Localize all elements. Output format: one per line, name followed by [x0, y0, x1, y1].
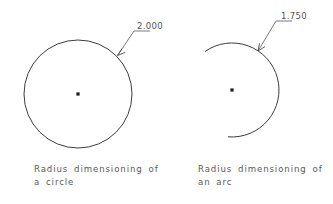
- figure-arc: [205, 21, 292, 137]
- circle-caption-line-1: Radius dimensioning of: [34, 163, 159, 176]
- circle-figure-caption: Radius dimensioning of a circle: [34, 163, 159, 189]
- circle-radius-leader-line: [118, 31, 151, 56]
- figure-circle: [24, 31, 150, 148]
- arc-caption-line-1: Radius dimensioning of: [198, 163, 323, 176]
- circle-radius-dimension-text: 2.000: [137, 22, 163, 31]
- arc-radius-dimension-text: 1.750: [281, 12, 307, 21]
- arc-figure-caption: Radius dimensioning of an arc: [198, 163, 323, 189]
- circle-center-mark: [76, 92, 79, 95]
- arc-center-mark: [230, 88, 233, 91]
- arc-outline: [205, 43, 279, 137]
- arc-caption-line-2: an arc: [198, 176, 323, 189]
- arc-radius-leader-line: [258, 21, 292, 51]
- circle-radius-arrowhead: [118, 49, 126, 56]
- drawing-sheet: 2.000 1.750 Radius dimensioning of a cir…: [0, 0, 333, 204]
- circle-caption-line-2: a circle: [34, 176, 159, 189]
